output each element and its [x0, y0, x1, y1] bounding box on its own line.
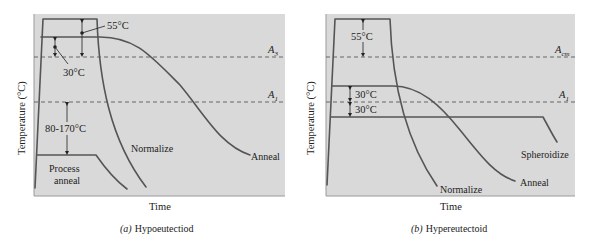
- x-axis-label-a: Time: [149, 201, 171, 212]
- caption-a: (a)Hypoeutectiod: [120, 223, 194, 235]
- label-30c-a: 30°C: [63, 67, 85, 78]
- heat-treatment-diagrams: 55°C 30°C 80-170°C Process anneal Normal…: [0, 0, 593, 237]
- label-30c-b-upper: 30°C: [355, 89, 377, 100]
- label-anneal-b: Anneal: [520, 177, 549, 188]
- caption-b: (b)Hypereutectoid: [411, 223, 487, 235]
- label-80-170c: 80-170°C: [45, 123, 86, 134]
- label-spheroidize: Spheroidize: [521, 149, 569, 160]
- panel-a: 55°C 30°C 80-170°C Process anneal Normal…: [16, 14, 285, 235]
- label-55c-a: 55°C: [107, 20, 129, 31]
- label-55c-b: 55°C: [351, 31, 373, 42]
- label-normalize-a: Normalize: [131, 143, 174, 154]
- label-anneal-process: anneal: [54, 175, 80, 186]
- y-axis-label-b: Temperature (°C): [305, 81, 317, 155]
- label-30c-b-lower: 30°C: [355, 104, 377, 115]
- label-normalize-b: Normalize: [440, 184, 483, 195]
- label-anneal-a: Anneal: [251, 151, 280, 162]
- label-process: Process: [49, 163, 80, 174]
- panel-b: 55°C 30°C 30°C Normalize Anneal Spheroid…: [305, 14, 575, 235]
- x-axis-label-b: Time: [440, 201, 462, 212]
- y-axis-label-a: Temperature (°C): [16, 81, 28, 155]
